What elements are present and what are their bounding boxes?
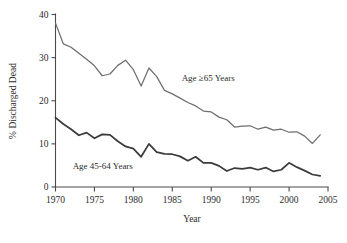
y-tick-label: 10 — [39, 139, 49, 149]
x-axis-title: Year — [183, 214, 201, 224]
y-tick-label: 40 — [39, 10, 49, 20]
x-tick-label: 1995 — [241, 195, 260, 205]
series-label-group: Age ≥65 YearsAge 45-64 Years — [73, 73, 236, 171]
y-tick-group: 010203040 — [39, 10, 56, 193]
x-tick-label: 1970 — [46, 195, 65, 205]
y-tick-label: 20 — [39, 96, 49, 106]
chart-container: 010203040 197019751980198519901995200020… — [0, 0, 347, 243]
series-line-age-65-plus — [56, 23, 321, 143]
x-tick-label: 1985 — [163, 195, 182, 205]
line-chart: 010203040 197019751980198519901995200020… — [0, 0, 347, 243]
x-tick-label: 1980 — [124, 195, 143, 205]
series-group — [56, 23, 321, 176]
y-tick-label: 0 — [44, 182, 49, 192]
x-tick-label: 2000 — [280, 195, 299, 205]
series-label-age-45-64: Age 45-64 Years — [73, 161, 134, 171]
y-tick-label: 30 — [39, 53, 49, 63]
series-label-age-65-plus: Age ≥65 Years — [182, 73, 236, 83]
x-tick-group: 19701975198019851990199520002005 — [46, 187, 338, 205]
y-axis-title: % Discharged Dead — [8, 63, 18, 139]
x-tick-label: 1990 — [202, 195, 221, 205]
x-tick-label: 1975 — [85, 195, 104, 205]
x-tick-label: 2005 — [319, 195, 338, 205]
